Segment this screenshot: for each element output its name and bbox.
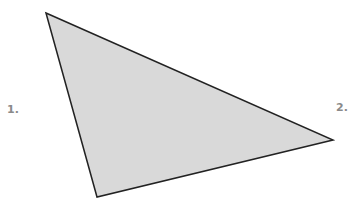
label-2: 2. <box>336 101 348 114</box>
label-1: 1. <box>7 103 19 116</box>
triangle-shape <box>46 13 333 197</box>
triangle-figure <box>0 0 353 198</box>
diagram-canvas: 1. 2. <box>0 0 353 198</box>
